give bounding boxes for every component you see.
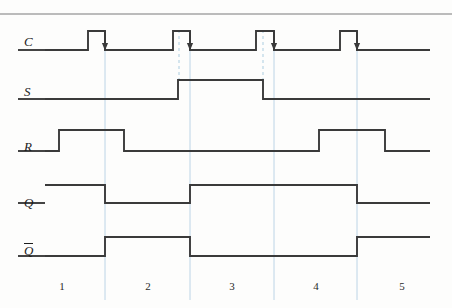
clock-falling-edge-arrow-3 [271,31,277,51]
clock-falling-edge-arrow-1 [102,31,108,51]
signal-label-S: S [24,85,31,98]
interval-label-3: 3 [229,281,235,292]
interval-label-5: 5 [399,281,405,292]
interval-label-2: 2 [145,281,151,292]
signal-label-text: Q [24,243,33,257]
signal-label-R: R [24,140,32,153]
interval-label-1: 1 [59,281,65,292]
signal-label-Qbar: Q [24,243,33,257]
signal-label-C: C [24,35,33,48]
waveform-R [45,130,430,151]
interval-label-4: 4 [313,281,319,292]
waveform-S [45,80,430,99]
clock-falling-edge-arrow-4 [354,31,360,51]
timing-diagram-figure: CSRQQ 12345 [0,0,452,308]
waveform-Q [45,185,430,203]
waveform-C [45,31,430,50]
waveform-Qbar [45,237,430,256]
clock-falling-edge-arrow-2 [187,31,193,51]
waveform-canvas [0,0,452,308]
signal-label-Q: Q [24,196,33,209]
